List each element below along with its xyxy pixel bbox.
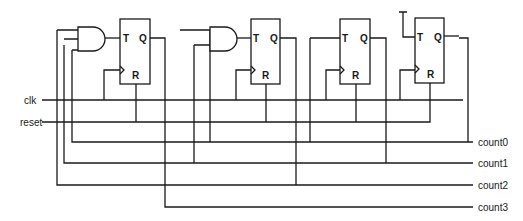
svg-text:T: T	[123, 33, 129, 44]
count3-label: count3	[478, 202, 508, 213]
count0-label: count0	[478, 137, 508, 148]
count2-label: count2	[478, 180, 508, 191]
t-flipflop-3: T Q R	[120, 19, 150, 84]
svg-text:R: R	[262, 70, 270, 81]
t-flipflop-1: T Q R	[340, 19, 370, 84]
reset-label: reset	[20, 117, 42, 128]
svg-text:T: T	[253, 33, 259, 44]
and-gate-1	[78, 27, 120, 51]
svg-text:Q: Q	[434, 32, 442, 43]
svg-text:R: R	[132, 70, 140, 81]
clk-label: clk	[24, 95, 37, 106]
svg-text:R: R	[427, 69, 435, 80]
svg-text:T: T	[342, 33, 348, 44]
t-flipflop-0: T Q R	[415, 18, 459, 83]
counter-schematic: clk reset T Q R T Q R T	[0, 0, 523, 221]
svg-text:R: R	[352, 70, 360, 81]
t-flipflop-2: T Q R	[251, 19, 280, 84]
svg-text:T: T	[417, 32, 423, 43]
ff-t-input-wire	[310, 38, 340, 142]
svg-text:Q: Q	[139, 33, 147, 44]
svg-text:Q: Q	[360, 33, 368, 44]
svg-text:Q: Q	[270, 33, 278, 44]
and1-inputs	[57, 30, 78, 50]
ff-t-high-wire	[399, 12, 415, 37]
and-gate-2	[210, 27, 251, 51]
count1-label: count1	[478, 158, 508, 169]
and2-inputs	[180, 30, 210, 163]
